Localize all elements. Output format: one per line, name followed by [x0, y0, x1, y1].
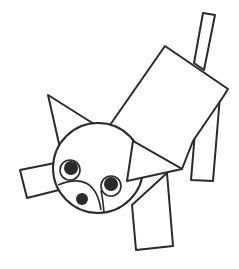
cat-drawing	[0, 0, 239, 269]
right-eye-pupil	[104, 177, 118, 191]
tail	[194, 13, 215, 70]
nostril	[76, 193, 88, 205]
left-eye-pupil	[64, 161, 78, 175]
